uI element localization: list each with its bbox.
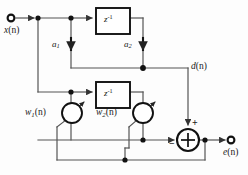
label-input-signal: x(n) bbox=[4, 26, 19, 36]
delay-block-bottom[interactable] bbox=[96, 82, 130, 108]
diagram-canvas bbox=[0, 0, 248, 175]
junction-dot-e-tap bbox=[202, 137, 207, 142]
label-summer-plus: + bbox=[192, 118, 198, 128]
input-port-terminal[interactable] bbox=[8, 15, 15, 22]
output-port-terminal[interactable] bbox=[228, 137, 235, 144]
label-coefficient-a2: a2 bbox=[124, 40, 132, 50]
label-desired-signal: d(n) bbox=[191, 62, 207, 72]
junction-dot-a-merge bbox=[140, 65, 146, 71]
block-diagram: x(n) e(n) d(n) a1 a2 w1(n) w2(n) + − z-1… bbox=[0, 0, 248, 175]
label-delay-top: z-1 bbox=[104, 14, 113, 24]
junction-dot-sum-in bbox=[140, 137, 145, 142]
multiplier-w2[interactable] bbox=[133, 103, 153, 123]
label-summer-minus: − bbox=[169, 139, 175, 149]
label-output-signal: e(n) bbox=[223, 148, 238, 158]
delay-block-top[interactable] bbox=[96, 8, 130, 34]
label-weight-w2: w2(n) bbox=[96, 108, 117, 118]
junction-dot-x-tap1 bbox=[35, 15, 40, 20]
label-coefficient-a1: a1 bbox=[52, 40, 60, 50]
label-delay-bottom: z-1 bbox=[104, 88, 113, 98]
junction-dot-x-tap2 bbox=[68, 15, 73, 20]
multiplier-w1[interactable] bbox=[62, 103, 82, 123]
label-weight-w1: w1(n) bbox=[25, 108, 46, 118]
junction-dot-w1-tap bbox=[68, 89, 73, 94]
junction-dot-feedback bbox=[122, 157, 127, 162]
